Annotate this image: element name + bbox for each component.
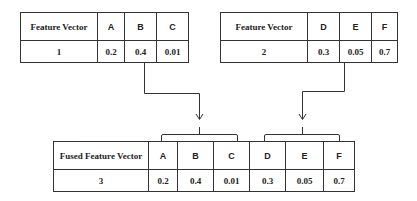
bracket-left [162,135,238,142]
bracket-right [265,135,340,142]
arrow-left [145,63,200,119]
arrow-right [303,63,345,119]
connector-arrows [0,0,417,201]
